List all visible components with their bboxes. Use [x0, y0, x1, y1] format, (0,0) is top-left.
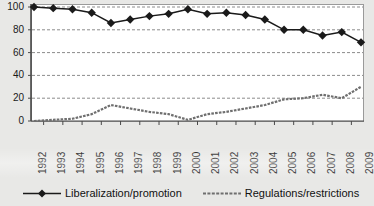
x-tick-label: 1993 — [57, 152, 67, 174]
data-series-layer — [0, 0, 374, 206]
x-tick-label: 2001 — [211, 152, 221, 174]
x-tick-label: 2002 — [230, 152, 240, 174]
x-tick-label: 1999 — [173, 152, 183, 174]
y-tick-label: 60 — [2, 48, 24, 58]
legend-label-liberalization: Liberalization/promotion — [65, 188, 182, 199]
x-tick-label: 1998 — [153, 152, 163, 174]
legend-marker-diamond-icon — [22, 188, 62, 199]
x-tick-label: 2008 — [346, 152, 356, 174]
chart-screenshot: 100806040200 199219931994199519961997199… — [0, 0, 374, 206]
x-tick-label: 2007 — [327, 152, 337, 174]
y-tick-label: 100 — [2, 2, 24, 12]
x-tick-label: 2009 — [365, 152, 374, 174]
y-tick-label: 80 — [2, 25, 24, 35]
x-tick-label: 2005 — [288, 152, 298, 174]
x-tick-label: 1996 — [115, 152, 125, 174]
x-tick-label: 2006 — [307, 152, 317, 174]
legend-item-regulations: Regulations/restrictions — [202, 188, 359, 199]
x-tick-label: 1994 — [76, 152, 86, 174]
x-tick-label: 1992 — [38, 152, 48, 174]
x-tick-label: 2004 — [269, 152, 279, 174]
x-tick-label: 2000 — [192, 152, 202, 174]
x-tick-label: 1995 — [96, 152, 106, 174]
y-tick-label: 20 — [2, 93, 24, 103]
x-tick-label: 2003 — [250, 152, 260, 174]
legend-marker-dashed-icon — [202, 188, 242, 199]
legend-item-liberalization: Liberalization/promotion — [22, 188, 182, 199]
chart-legend: Liberalization/promotion Regulations/res… — [22, 184, 362, 202]
legend-label-regulations: Regulations/restrictions — [245, 188, 359, 199]
y-tick-label: 40 — [2, 70, 24, 80]
y-tick-label: 0 — [2, 116, 24, 126]
x-tick-label: 1997 — [134, 152, 144, 174]
